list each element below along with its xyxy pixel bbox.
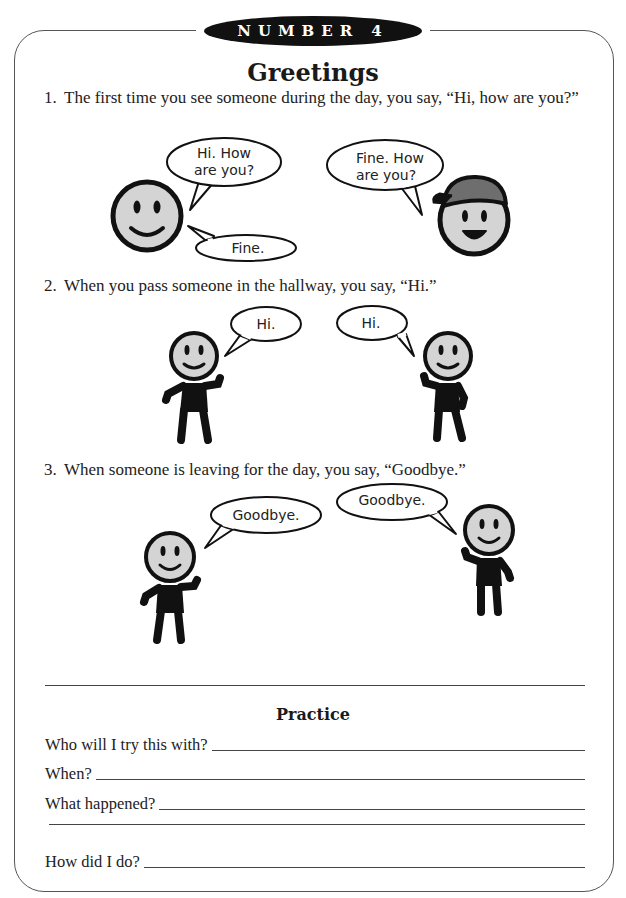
answer-line[interactable] [96,778,585,780]
answer-line[interactable] [144,866,585,868]
illustration-item-2: Hi. Hi. [166,306,471,440]
question-label: Who will I try this with? [45,735,212,755]
practice-question-when[interactable]: When? [45,764,585,784]
bubble-text: Goodbye. [232,507,299,523]
bubble-text: Goodbye. [358,492,425,508]
speech-bubble-goodbye-right: Goodbye. [337,484,456,534]
practice-question-who[interactable]: Who will I try this with? [45,735,585,755]
speech-bubble-goodbye-left: Goodbye. [205,497,321,548]
waving-person-icon [144,533,197,640]
speech-bubble-fine: Fine. [188,226,296,261]
section-divider [45,685,585,686]
waving-person-icon [166,333,220,440]
practice-question-what-happened[interactable]: What happened? [45,794,585,814]
bubble-text: are you? [356,167,416,183]
speech-bubble-hi-left: Hi. [225,307,301,356]
speech-bubble-hi-how-are-you: Hi. How are you? [167,138,281,210]
answer-line[interactable] [159,808,585,810]
waving-person-icon [465,506,513,612]
question-label: How did I do? [45,852,144,872]
smiley-face-icon [113,182,181,250]
illustration-item-1: Hi. How are you? Fine. Fine. How are you… [113,138,508,261]
bubble-text: Fine. How [356,150,424,166]
illustration-item-3: Goodbye. Goodbye. [144,484,513,640]
practice-question-continuation[interactable] [45,823,585,829]
question-label: When? [45,764,96,784]
bubble-text: Hi. [257,316,276,332]
practice-question-how-did-i-do[interactable]: How did I do? [45,852,585,872]
question-label: What happened? [45,794,159,814]
speech-bubble-fine-how-are-you: Fine. How are you? [327,140,443,215]
cap-face-icon [434,177,508,254]
answer-line[interactable] [49,823,585,825]
answer-line[interactable] [212,749,585,751]
bubble-text: are you? [194,162,254,178]
bubble-text: Hi. How [197,145,251,161]
practice-title: Practice [0,705,626,724]
bubble-text: Fine. [232,240,265,256]
waving-person-icon [424,333,471,438]
bubble-text: Hi. [362,315,381,331]
speech-bubble-hi-right: Hi. [337,306,414,356]
